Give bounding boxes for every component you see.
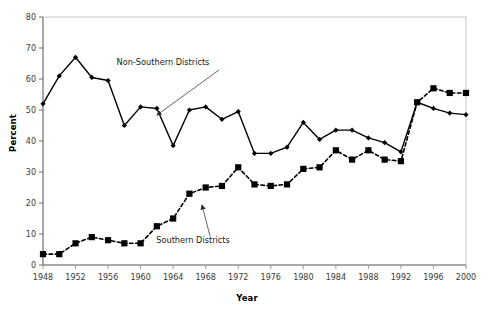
x-axis-title: Year — [0, 293, 494, 303]
y-tick-label: 30 — [26, 168, 36, 177]
chart-container: 01020304050607080 1948195219561960196419… — [0, 0, 494, 316]
data-point-marker — [463, 90, 469, 96]
data-point-marker — [447, 90, 453, 96]
y-tick-label: 10 — [26, 230, 36, 239]
data-series-group — [40, 55, 469, 258]
x-tick-label: 1964 — [163, 273, 183, 282]
data-point-marker — [463, 112, 468, 117]
data-point-marker — [40, 251, 46, 257]
x-tick-label: 1952 — [65, 273, 85, 282]
annotation-1: Non-Southern Districts — [117, 57, 219, 115]
y-tick-label: 70 — [26, 44, 36, 53]
data-point-marker — [300, 166, 306, 172]
y-tick-label: 0 — [31, 261, 36, 270]
data-point-marker — [89, 234, 95, 240]
x-tick-label: 1948 — [33, 273, 53, 282]
data-point-marker — [252, 151, 257, 156]
data-point-marker — [268, 183, 274, 189]
annotation-leader-line — [157, 70, 219, 115]
data-point-marker — [268, 151, 273, 156]
data-point-marker — [186, 191, 192, 197]
plot-frame — [43, 17, 466, 265]
x-tick-label: 1972 — [228, 273, 248, 282]
y-axis: 01020304050607080 — [26, 13, 43, 270]
x-tick-label: 1960 — [130, 273, 150, 282]
data-point-marker — [121, 240, 127, 246]
series-line — [43, 88, 466, 254]
data-point-marker — [316, 164, 322, 170]
y-axis-title: Percent — [8, 108, 18, 158]
series-1 — [40, 55, 468, 156]
data-point-marker — [398, 158, 404, 164]
series-2 — [40, 85, 469, 257]
x-tick-label: 1988 — [358, 273, 378, 282]
data-point-marker — [170, 215, 176, 221]
data-point-marker — [349, 157, 355, 163]
data-point-marker — [431, 106, 436, 111]
data-point-marker — [365, 147, 371, 153]
data-point-marker — [235, 164, 241, 170]
x-tick-label: 2000 — [456, 273, 476, 282]
x-tick-label: 1976 — [261, 273, 281, 282]
data-point-marker — [333, 147, 339, 153]
y-tick-label: 40 — [26, 137, 36, 146]
data-point-marker — [284, 181, 290, 187]
x-axis: 1948195219561960196419681972197619801984… — [33, 265, 476, 282]
annotation-leader-line — [202, 205, 210, 236]
data-point-marker — [350, 128, 355, 133]
x-tick-label: 1968 — [196, 273, 216, 282]
x-tick-label: 1980 — [293, 273, 313, 282]
data-point-marker — [105, 78, 110, 83]
data-point-marker — [187, 107, 192, 112]
data-point-marker — [430, 85, 436, 91]
data-point-marker — [154, 223, 160, 229]
line-chart: 01020304050607080 1948195219561960196419… — [0, 0, 494, 316]
data-point-marker — [72, 240, 78, 246]
x-tick-label: 1992 — [391, 273, 411, 282]
data-point-marker — [447, 111, 452, 116]
data-point-marker — [414, 99, 420, 105]
annotation-label: Southern Districts — [156, 235, 230, 245]
y-tick-label: 60 — [26, 75, 36, 84]
data-point-marker — [138, 240, 144, 246]
data-point-marker — [219, 183, 225, 189]
data-point-marker — [382, 157, 388, 163]
x-tick-label: 1956 — [98, 273, 118, 282]
data-point-marker — [236, 109, 241, 114]
data-point-marker — [154, 106, 159, 111]
x-tick-label: 1996 — [423, 273, 443, 282]
annotation-2: Southern Districts — [156, 205, 230, 245]
data-point-marker — [251, 181, 257, 187]
y-tick-label: 50 — [26, 106, 36, 115]
data-point-marker — [203, 184, 209, 190]
plot-area-border — [43, 17, 466, 265]
series-line — [43, 57, 466, 153]
y-tick-label: 20 — [26, 199, 36, 208]
data-point-marker — [56, 251, 62, 257]
data-point-marker — [105, 237, 111, 243]
data-point-marker — [366, 135, 371, 140]
annotation-label: Non-Southern Districts — [117, 57, 210, 67]
y-tick-label: 80 — [26, 13, 36, 22]
x-tick-label: 1984 — [326, 273, 346, 282]
data-point-marker — [171, 143, 176, 148]
